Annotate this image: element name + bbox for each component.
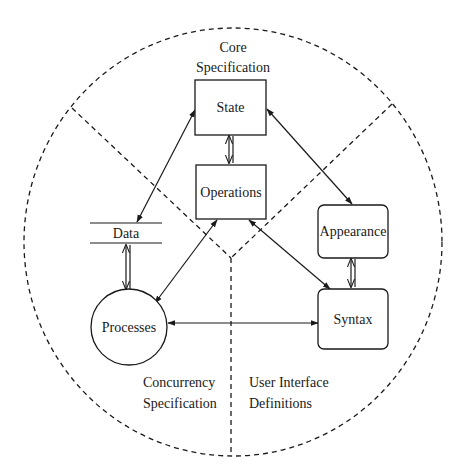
svg-text:Core: Core bbox=[219, 40, 246, 55]
svg-text:Processes: Processes bbox=[102, 320, 156, 335]
svg-text:Definitions: Definitions bbox=[249, 396, 312, 411]
edge-state-appearance bbox=[267, 109, 352, 204]
edge-operations-processes bbox=[155, 220, 217, 303]
svg-text:Appearance: Appearance bbox=[320, 224, 387, 239]
edge-state-data bbox=[137, 110, 195, 222]
node-appearance: Appearance bbox=[318, 205, 388, 258]
svg-text:User Interface: User Interface bbox=[249, 375, 329, 390]
svg-text:Specification: Specification bbox=[196, 60, 270, 75]
node-data: Data bbox=[90, 223, 162, 243]
architecture-diagram: Core Specification Concurrency Specifica… bbox=[0, 0, 464, 470]
region-concurrency-label: Concurrency Specification bbox=[143, 375, 217, 411]
region-core-label: Core Specification bbox=[196, 40, 270, 75]
svg-text:Data: Data bbox=[113, 226, 140, 241]
node-state: State bbox=[195, 80, 266, 135]
node-operations: Operations bbox=[196, 165, 266, 219]
svg-text:Syntax: Syntax bbox=[334, 312, 373, 327]
node-processes: Processes bbox=[91, 289, 167, 365]
svg-text:Operations: Operations bbox=[200, 185, 261, 200]
svg-text:Concurrency: Concurrency bbox=[143, 375, 215, 390]
svg-text:State: State bbox=[217, 100, 245, 115]
node-syntax: Syntax bbox=[318, 289, 388, 349]
svg-text:Specification: Specification bbox=[143, 396, 217, 411]
region-user-interface-label: User Interface Definitions bbox=[249, 375, 329, 411]
